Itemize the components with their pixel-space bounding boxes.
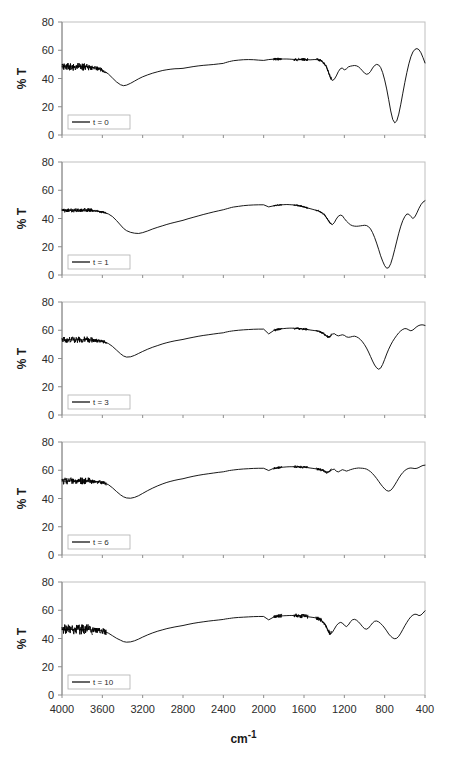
- y-tick-label: 20: [42, 381, 54, 393]
- x-tick-label: 2800: [171, 703, 195, 715]
- legend-series-label: t = 10: [93, 678, 114, 687]
- y-axis-title: % T: [15, 627, 29, 649]
- y-tick-label: 60: [42, 464, 54, 476]
- x-tick-label: 2000: [251, 703, 275, 715]
- y-tick-label: 0: [48, 409, 54, 421]
- y-tick-label: 0: [48, 689, 54, 701]
- y-tick-label: 20: [42, 661, 54, 673]
- x-tick-label: 1600: [292, 703, 316, 715]
- ftir-spectra-figure: 020406080% Tt = 0020406080% Tt = 1020406…: [0, 0, 457, 769]
- y-tick-label: 20: [42, 241, 54, 253]
- y-tick-label: 40: [42, 213, 54, 225]
- y-tick-label: 80: [42, 296, 54, 308]
- y-tick-label: 0: [48, 269, 54, 281]
- y-tick-label: 40: [42, 493, 54, 505]
- x-tick-label: 1200: [332, 703, 356, 715]
- y-tick-label: 40: [42, 353, 54, 365]
- y-tick-label: 20: [42, 101, 54, 113]
- y-axis-title: % T: [15, 487, 29, 509]
- legend-series-label: t = 6: [93, 538, 109, 547]
- y-tick-label: 0: [48, 549, 54, 561]
- x-tick-label: 2400: [211, 703, 235, 715]
- y-tick-label: 80: [42, 156, 54, 168]
- y-tick-label: 80: [42, 576, 54, 588]
- y-tick-label: 60: [42, 604, 54, 616]
- x-tick-label: 800: [375, 703, 393, 715]
- y-tick-label: 80: [42, 16, 54, 28]
- y-axis-title: % T: [15, 347, 29, 369]
- x-tick-label: 400: [416, 703, 434, 715]
- x-tick-label: 3200: [130, 703, 154, 715]
- legend-series-label: t = 1: [93, 258, 109, 267]
- y-tick-label: 0: [48, 129, 54, 141]
- y-tick-label: 20: [42, 521, 54, 533]
- legend-series-label: t = 3: [93, 398, 109, 407]
- y-axis-title: % T: [15, 207, 29, 229]
- x-axis-title-superscript: -1: [248, 729, 257, 740]
- y-axis-title: % T: [15, 67, 29, 89]
- y-tick-label: 40: [42, 633, 54, 645]
- y-tick-label: 80: [42, 436, 54, 448]
- y-tick-label: 60: [42, 324, 54, 336]
- y-tick-label: 60: [42, 184, 54, 196]
- x-tick-label: 4000: [50, 703, 74, 715]
- x-tick-label: 3600: [90, 703, 114, 715]
- y-tick-label: 60: [42, 44, 54, 56]
- y-tick-label: 40: [42, 73, 54, 85]
- legend-series-label: t = 0: [93, 118, 109, 127]
